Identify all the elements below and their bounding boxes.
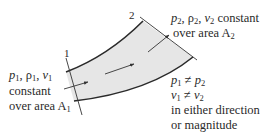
area-text: over area A (173, 26, 231, 40)
magnitude-text: or magnitude (171, 118, 237, 132)
not-equal: ≠ (182, 73, 195, 87)
inlet-constant-text: constant (9, 84, 51, 98)
area-text: over area A (9, 99, 67, 113)
inlet-properties: p1, ρ1, v1 (9, 68, 52, 85)
direction-text: in either direction (171, 103, 260, 117)
v1-sub: 1 (48, 73, 52, 83)
not-equal: ≠ (181, 88, 194, 102)
p2-sub: 2 (201, 78, 205, 88)
section-1-label: 1 (64, 46, 70, 60)
inlet-area-text: over area A1 (9, 99, 71, 116)
area-sub: 1 (67, 104, 71, 114)
constant-text: constant (214, 11, 259, 25)
v2-sub: 2 (200, 93, 204, 103)
outlet-area-text: over area A2 (173, 26, 235, 43)
section-2-label: 2 (129, 8, 135, 22)
area-sub: 2 (231, 31, 235, 41)
